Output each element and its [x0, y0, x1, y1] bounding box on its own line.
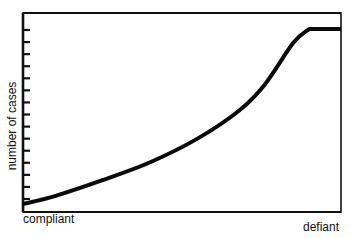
y-axis-label: number of cases: [5, 82, 19, 171]
data-curve: [23, 29, 341, 204]
chart: [0, 0, 351, 238]
x-tick-label-defiant: defiant: [303, 220, 339, 234]
x-tick-label-compliant: compliant: [23, 212, 74, 226]
